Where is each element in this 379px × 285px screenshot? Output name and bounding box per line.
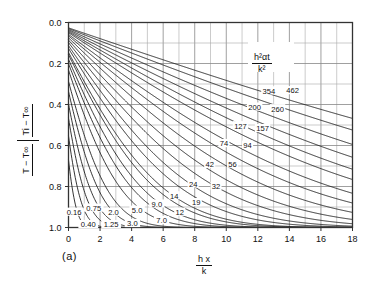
curve-label-462: 462 — [286, 86, 299, 95]
curve-label-200: 200 — [248, 103, 261, 112]
curve-label-0.40: 0.40 — [81, 220, 96, 229]
y-axis-numerator: T − T∞ — [22, 144, 33, 175]
curve-label-260: 260 — [271, 105, 284, 114]
curve-label-354: 354 — [263, 87, 276, 96]
grid-lines — [69, 23, 353, 228]
curve-label-56: 56 — [228, 160, 236, 169]
x-tick-label: 16 — [316, 234, 326, 244]
x-tick-label: 6 — [161, 234, 166, 244]
parameter-key-label: h²αt k² — [252, 46, 272, 75]
curve-label-42: 42 — [205, 160, 213, 169]
curve-label-32: 32 — [212, 182, 220, 191]
x-tick-label: 0 — [66, 234, 71, 244]
x-axis-label: h x k — [196, 248, 212, 277]
x-axis-denominator: k — [200, 266, 209, 276]
curve-label-24: 24 — [189, 180, 197, 189]
curve-label-127: 127 — [234, 122, 247, 131]
y-tick-label: 0.6 — [49, 141, 62, 151]
curve-label-5.0: 5.0 — [132, 206, 143, 215]
curve-label-9.0: 9.0 — [152, 200, 163, 209]
curve-label-7.0: 7.0 — [156, 216, 167, 225]
y-axis-label: T − T∞ Ti − T∞ — [8, 80, 48, 200]
curve-label-0.75: 0.75 — [86, 204, 101, 213]
chart-svg: 0246810121416180.00.20.40.60.81.00.160.4… — [0, 0, 379, 285]
x-tick-label: 8 — [192, 234, 197, 244]
y-tick-label: 0.4 — [49, 100, 62, 110]
x-tick-label: 14 — [284, 234, 294, 244]
y-tick-label: 0.2 — [49, 59, 62, 69]
x-tick-label: 2 — [98, 234, 103, 244]
y-tick-label: 1.0 — [49, 223, 62, 233]
x-tick-label: 12 — [253, 234, 263, 244]
figure-root: 0246810121416180.00.20.40.60.81.00.160.4… — [0, 0, 379, 285]
curve-label-1.25: 1.25 — [104, 220, 119, 229]
panel-label: (a) — [62, 250, 77, 262]
curve-label-0.16: 0.16 — [67, 208, 82, 217]
x-tick-label: 18 — [347, 234, 357, 244]
curve-label-12: 12 — [176, 208, 184, 217]
x-tick-label: 10 — [221, 234, 231, 244]
curve-label-14: 14 — [170, 192, 178, 201]
curve-label-3.0: 3.0 — [127, 219, 138, 228]
axis-ticks — [65, 23, 353, 232]
chart-canvas: 0246810121416180.00.20.40.60.81.00.160.4… — [0, 0, 379, 285]
x-axis-numerator: h x — [196, 255, 212, 266]
curve-label-157: 157 — [256, 124, 269, 133]
x-tick-label: 4 — [129, 234, 134, 244]
y-tick-label: 0.0 — [49, 18, 62, 28]
curve-label-94: 94 — [243, 141, 251, 150]
y-axis-denominator: Ti − T∞ — [22, 104, 33, 137]
curve-label-74: 74 — [220, 139, 228, 148]
key-denominator: k² — [256, 64, 268, 74]
key-numerator: h²αt — [252, 53, 272, 64]
curve-label-19: 19 — [192, 198, 200, 207]
curve-label-2.0: 2.0 — [108, 208, 119, 217]
y-tick-label: 0.8 — [49, 182, 62, 192]
